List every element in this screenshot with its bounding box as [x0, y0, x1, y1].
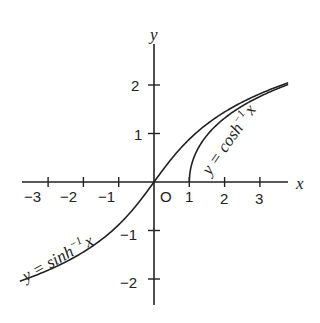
- svg-text:y = sinh−1x: y = sinh−1x: [16, 229, 97, 287]
- y-axis-label: y: [148, 25, 158, 44]
- origin-label: O: [160, 188, 172, 205]
- x-tick-label: −1: [98, 188, 115, 205]
- y-tick-label: 1: [134, 126, 142, 143]
- svg-text:y = cosh−1x: y = cosh−1x: [195, 99, 260, 180]
- y-tick-label: −1: [120, 226, 137, 243]
- sinh-label: y = sinh−1x: [16, 229, 97, 287]
- chart-container: y x O −3 −2 −1 1 2 3 2 1 −1 −2 y = sinh−…: [0, 0, 320, 323]
- y-tick-label: −2: [120, 274, 137, 291]
- x-tick-label: −2: [60, 188, 77, 205]
- x-tick-label: 3: [255, 190, 263, 207]
- x-axis-label: x: [295, 174, 304, 193]
- cosh-label: y = cosh−1x: [195, 99, 260, 180]
- y-tick-label: 2: [131, 77, 139, 94]
- x-tick-label: 1: [185, 188, 193, 205]
- x-tick-label: −3: [24, 188, 41, 205]
- x-tick-label: 2: [220, 190, 228, 207]
- plot-area: y x O −3 −2 −1 1 2 3 2 1 −1 −2 y = sinh−…: [0, 0, 320, 323]
